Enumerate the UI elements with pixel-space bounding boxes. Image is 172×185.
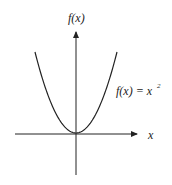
x-axis-label: x (147, 128, 154, 142)
curve-label: f(x) = x (116, 84, 153, 98)
graph: f(x) x f(x) = x 2 (0, 0, 172, 185)
y-axis-label: f(x) (68, 11, 85, 25)
curve-label-exponent: 2 (157, 82, 161, 90)
